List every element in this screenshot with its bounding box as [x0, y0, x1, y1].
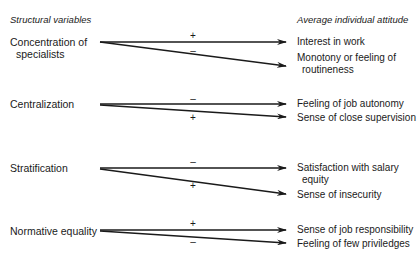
attitude-few-privileges: Feeling of few priviledges: [297, 238, 410, 250]
attitude-interest-in-work: Interest in work: [297, 36, 365, 48]
sign-minus: –: [190, 46, 196, 56]
header-structural-variables: Structural variables: [10, 14, 91, 25]
sign-plus: +: [190, 31, 196, 41]
header-average-attitude: Average individual attitude: [297, 14, 408, 25]
sign-minus: –: [190, 94, 196, 104]
attitude-salary-equity: Satisfaction with salary equity: [297, 162, 399, 185]
attitude-line: Satisfaction with salary: [297, 162, 399, 174]
sign-plus: +: [190, 181, 196, 191]
sign-minus: –: [190, 237, 196, 247]
attitude-insecurity: Sense of insecurity: [297, 189, 382, 201]
attitude-job-responsibility: Sense of job responsibility: [297, 224, 413, 236]
attitude-job-autonomy: Feeling of job autonomy: [297, 98, 404, 110]
attitude-line: routineness: [297, 64, 396, 76]
variable-stratification: Stratification: [10, 162, 68, 174]
sign-plus: +: [190, 113, 196, 123]
attitude-line: Monotony or feeling of: [297, 52, 396, 64]
attitude-monotony: Monotony or feeling of routineness: [297, 52, 396, 75]
variable-line: specialists: [10, 48, 87, 60]
sign-minus: –: [190, 157, 196, 167]
variable-normative-equality: Normative equality: [10, 225, 97, 237]
variable-line: Concentration of: [10, 36, 87, 48]
variable-concentration-of-specialists: Concentration of specialists: [10, 36, 87, 60]
attitude-line: equity: [297, 174, 399, 186]
variable-centralization: Centralization: [10, 98, 74, 110]
sign-plus: +: [190, 219, 196, 229]
attitude-close-supervision: Sense of close supervision: [297, 112, 416, 124]
